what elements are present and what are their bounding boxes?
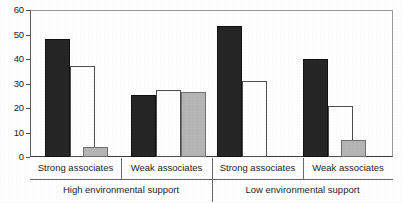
y-tick-label-0: 0 <box>19 152 24 162</box>
bar-g3-black <box>217 26 242 157</box>
category-label-1: Weak associates <box>121 162 212 173</box>
label-separator-1 <box>303 158 304 180</box>
y-tick-label-50: 50 <box>14 30 24 40</box>
bar-g2-black <box>131 95 156 157</box>
y-tick-label-30: 30 <box>14 79 24 89</box>
bar-g4-gray <box>341 140 366 157</box>
group-separator <box>212 158 213 202</box>
bar-g1-gray <box>83 147 108 157</box>
y-tick-label-40: 40 <box>14 54 24 64</box>
category-label-2: Strong associates <box>212 162 303 173</box>
bar-g2-gray <box>181 92 206 157</box>
bar-g1-black <box>45 39 70 157</box>
bar-g2-white <box>156 90 181 157</box>
y-tick-label-20: 20 <box>14 103 24 113</box>
y-tick-label-60: 60 <box>14 5 24 15</box>
y-axis: 60 50 40 30 20 10 0 <box>0 0 30 160</box>
label-separator-0 <box>121 158 122 180</box>
category-label-3: Weak associates <box>303 162 393 173</box>
grouped-bar-chart: 60 50 40 30 20 10 0 Strong ass <box>0 0 402 203</box>
bar-g3-white <box>242 81 267 157</box>
supercategory-label-0: High environmental support <box>30 184 212 195</box>
bars-layer <box>31 10 393 157</box>
supercategory-label-1: Low environmental support <box>212 184 393 195</box>
bar-g4-black <box>303 59 328 157</box>
category-label-0: Strong associates <box>30 162 121 173</box>
bar-g1-white <box>70 66 95 157</box>
y-tick-label-10: 10 <box>14 128 24 138</box>
